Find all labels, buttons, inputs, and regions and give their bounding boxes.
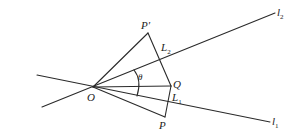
line-l1 (37, 75, 270, 122)
label-theta: θ (138, 72, 143, 82)
line-l2 (42, 13, 275, 107)
label-P-prime: P′ (140, 19, 151, 31)
label-O: O (87, 91, 95, 103)
label-l2: l2 (277, 6, 284, 21)
geometry-diagram: P′ L2 θ Q L1 O P l2 l1 (0, 0, 302, 138)
label-L2: L2 (160, 41, 171, 56)
diagram-svg: P′ L2 θ Q L1 O P l2 l1 (0, 0, 302, 138)
segment-Pprime-Q (148, 33, 171, 86)
segment-O-Q (93, 86, 171, 87)
label-P: P (158, 119, 166, 131)
segment-O-P (93, 87, 165, 117)
label-L1: L1 (171, 91, 182, 106)
label-Q: Q (173, 78, 181, 90)
label-l1: l1 (272, 115, 279, 130)
